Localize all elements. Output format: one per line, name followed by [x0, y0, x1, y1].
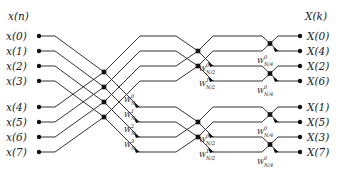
input-label: x(5)	[6, 116, 27, 128]
twiddle-label-stage2-sub: N/2	[205, 155, 215, 161]
stage1-wire-in	[39, 36, 104, 72]
output-label: X(5)	[306, 116, 329, 128]
input-dot	[37, 135, 41, 139]
stage3-wire-out-upper	[270, 36, 300, 44]
output-dot	[298, 150, 302, 154]
input-label: x(0)	[6, 30, 27, 42]
stage1-wire-in	[39, 72, 104, 107]
twiddle-label-stage3-sup: 0	[264, 155, 268, 161]
twiddle-label-stage1-sub: N	[130, 130, 136, 136]
stage3-wire-in	[248, 145, 270, 153]
twiddle-label-stage3-sup: 0	[264, 54, 268, 60]
stage3-node	[268, 41, 273, 46]
twiddle-label-stage3-sub: N/4	[263, 61, 273, 67]
stage1-wire-in	[39, 87, 104, 122]
output-label: X(0)	[306, 30, 329, 42]
stage3-node	[268, 71, 273, 76]
output-dot	[298, 79, 302, 83]
output-dot	[298, 34, 302, 38]
twiddle-label-stage1-sub: N	[130, 115, 136, 121]
output-label: X(1)	[306, 101, 329, 113]
stage1-node	[102, 70, 107, 75]
output-label: X(2)	[306, 60, 329, 72]
stage3-wire-in	[248, 107, 270, 115]
stage1-wire-out-upper	[104, 66, 176, 102]
twiddle-label-stage2-sub: N/2	[205, 84, 215, 90]
twiddle-label-stage1-sup: 1	[131, 108, 134, 114]
input-dot	[37, 79, 41, 83]
output-dot	[298, 64, 302, 68]
input-label: x(1)	[6, 45, 27, 57]
stage3-wire-out-upper	[270, 107, 300, 115]
stage1-wire-out-upper	[104, 81, 176, 117]
input-dot	[37, 120, 41, 124]
stage3-wire-in	[248, 36, 270, 44]
output-label: X(7)	[306, 146, 329, 158]
stage2-wire-in	[176, 137, 198, 152]
output-label: X(4)	[306, 45, 329, 57]
stage1-node	[102, 100, 107, 105]
twiddle-label-stage1-sup: 3	[131, 138, 134, 144]
stage2-node	[196, 120, 201, 125]
twiddle-label-stage1-sup: 0	[131, 93, 135, 99]
twiddle-label-stage2-sub: N/2	[205, 69, 215, 75]
output-header: X(k)	[304, 10, 327, 22]
twiddle-label-stage3-sub: N/4	[263, 91, 273, 97]
output-label: X(6)	[306, 75, 329, 87]
stage2-wire-in	[176, 36, 198, 51]
stage3-wire-out-upper	[270, 137, 300, 145]
stage3-wire-in	[248, 137, 270, 145]
stage2-wire-out-upper	[198, 107, 248, 122]
input-dot	[37, 34, 41, 38]
stage3-wire-in	[248, 44, 270, 52]
input-label: x(4)	[6, 101, 27, 113]
output-label: X(3)	[306, 131, 329, 143]
twiddle-label-stage1-sup: 2	[130, 123, 134, 129]
input-dot	[37, 64, 41, 68]
stage3-wire-in	[248, 66, 270, 74]
output-dot	[298, 49, 302, 53]
stage3-wire-out-upper	[270, 66, 300, 74]
twiddle-label-stage2-sup: 1	[206, 148, 209, 154]
input-label: x(3)	[6, 75, 27, 87]
stage3-wire-in	[248, 115, 270, 123]
stage3-wire-in	[248, 74, 270, 82]
stage2-wire-in	[176, 66, 198, 81]
input-label: x(6)	[6, 131, 27, 143]
stage3-node	[268, 112, 273, 117]
stage1-wire-out-lower	[104, 87, 176, 122]
input-label: x(7)	[6, 146, 27, 158]
output-dot	[298, 105, 302, 109]
stage2-wire-in	[176, 107, 198, 122]
twiddle-label-stage2-sub: N/2	[205, 140, 215, 146]
stage1-wire-in	[39, 51, 104, 87]
input-dot	[37, 150, 41, 154]
fft-flow-graph: x(n) X(k) x(0)x(1)x(2)x(3)x(4)x(5)x(6)x(…	[0, 0, 344, 173]
twiddle-label-stage3-sup: 0	[264, 84, 268, 90]
input-header: x(n)	[8, 10, 29, 22]
stage1-wire-in	[39, 66, 104, 102]
input-dot	[37, 105, 41, 109]
input-dot	[37, 49, 41, 53]
twiddle-label-stage3-sup: 0	[264, 125, 268, 131]
stage1-wire-out-lower	[104, 72, 176, 107]
stage1-node	[102, 85, 107, 90]
stage2-wire-out-upper	[198, 36, 248, 51]
stage3-node	[268, 142, 273, 147]
stage1-node	[102, 115, 107, 120]
twiddle-label-stage3-sub: N/4	[263, 132, 273, 138]
output-dot	[298, 120, 302, 124]
output-dot	[298, 135, 302, 139]
twiddle-label-stage3-sub: N/4	[263, 162, 273, 168]
twiddle-label-stage2-sup: 1	[206, 77, 209, 83]
stage1-wire-in	[39, 81, 104, 117]
twiddle-label-stage1-sub: N	[130, 145, 136, 151]
twiddle-label-stage1-sub: N	[130, 100, 136, 106]
stage2-node	[196, 49, 201, 54]
input-label: x(2)	[6, 60, 27, 72]
labels: x(n) X(k) x(0)x(1)x(2)x(3)x(4)x(5)x(6)x(…	[6, 10, 329, 168]
